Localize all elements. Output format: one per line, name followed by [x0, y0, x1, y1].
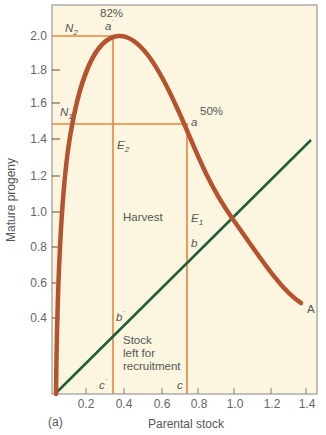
y-tick-label: 1.8 [30, 63, 47, 77]
a-label: a [191, 116, 197, 128]
stock-label-line1: Stock [123, 334, 152, 346]
y-tick-label: 0.4 [30, 311, 47, 325]
y-tick-label: 0.6 [30, 276, 47, 290]
stock-label-line2: left for [123, 347, 155, 359]
half-percent-label: 50% [200, 105, 223, 117]
x-tick-label: 0.4 [116, 397, 133, 411]
x-axis-labels: 0.2 0.4 0.6 0.8 1.0 1.2 1.4 [78, 397, 316, 411]
panel-label: (a) [48, 415, 63, 429]
y-axis-labels: 0.4 0.6 0.8 1.0 1.2 1.4 1.6 1.8 2.0 [30, 29, 47, 325]
stock-recruitment-chart: 0.4 0.6 0.8 1.0 1.2 1.4 1.6 1.8 2.0 0.2 … [0, 0, 326, 435]
curve-end-label: A [307, 303, 315, 315]
y-axis-title: Mature progeny [4, 158, 18, 242]
stock-label-line3: recruitment [123, 360, 181, 372]
x-tick-label: 1.0 [227, 397, 244, 411]
x-tick-label: 1.2 [264, 397, 281, 411]
y-tick-label: 1.6 [30, 96, 47, 110]
y-tick-label: 1.0 [30, 205, 47, 219]
c-label: c [177, 379, 183, 391]
y-tick-label: 1.4 [30, 132, 47, 146]
x-tick-label: 0.2 [78, 397, 95, 411]
x-tick-label: 0.8 [191, 397, 208, 411]
y-tick-label: 2.0 [30, 29, 47, 43]
x-tick-label: 1.4 [299, 397, 316, 411]
y-tick-label: 1.2 [30, 169, 47, 183]
b-label: b [191, 237, 198, 249]
x-axis-title: Parental stock [148, 417, 225, 431]
harvest-label: Harvest [123, 211, 163, 223]
y-tick-label: 0.8 [30, 240, 47, 254]
x-tick-label: 0.6 [154, 397, 171, 411]
